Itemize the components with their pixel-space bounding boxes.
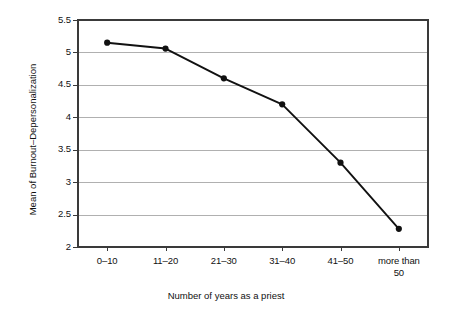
y-tick-label: 4 [41, 111, 71, 122]
y-tick-label: 5.5 [41, 14, 71, 25]
chart-figure: 22.533.544.555.5 0–1011–2021–3031–4041–5… [0, 0, 452, 318]
data-point-marker [221, 75, 227, 81]
y-tick-label: 4.5 [41, 78, 71, 89]
y-tick-label: 2.5 [41, 208, 71, 219]
x-tick-label-line1: more than [359, 255, 439, 267]
data-point-marker [337, 160, 343, 166]
data-point-marker [396, 226, 402, 232]
y-tick-label: 3.5 [41, 143, 71, 154]
data-point-marker [104, 40, 110, 46]
y-axis-title: Mean of Burnout–Depersonalization [27, 40, 38, 240]
x-tick-label-line2: 50 [359, 267, 439, 279]
data-point-marker [279, 101, 285, 107]
y-tick-label: 5 [41, 46, 71, 57]
x-axis-title: Number of years as a priest [0, 290, 452, 301]
data-point-marker [162, 45, 168, 51]
x-tick-label: more than50 [359, 255, 439, 279]
plot-background [78, 20, 428, 247]
y-tick-label: 2 [41, 241, 71, 252]
y-tick-label: 3 [41, 176, 71, 187]
